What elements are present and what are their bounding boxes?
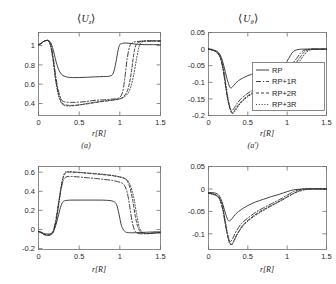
xtick-label: 0: [36, 252, 40, 261]
panel-lower-right-yticks: [209, 167, 327, 234]
ytick-label: 0.6: [25, 168, 35, 177]
figure-root: ⟨Uz⟩: [0, 0, 336, 284]
panel-uz-title-group: ⟨Uz⟩: [77, 12, 96, 25]
panel-lower-right-svg: 0 0.5 1 1.5 0.05 0 -0.05 -0.1 r[R]: [168, 152, 336, 284]
ytick-label: 0: [31, 225, 35, 234]
ytick-label: -0.05: [188, 61, 205, 70]
legend-label-rp2r: RP+2R: [272, 89, 297, 98]
curve-rpplus1r: [39, 40, 161, 102]
panel-lower-right-xticklabels: 0 0.5 1 1.5: [206, 252, 331, 261]
ytick-label: -0.05: [188, 207, 205, 216]
ytick-label: -0.1: [192, 230, 205, 239]
panel-utheta-yticks: [209, 33, 213, 116]
panel-lower-left-svg: 0 0.5 1 1.5 0.6 0.4 0.2 0 -0.2 r[R]: [0, 152, 172, 284]
panel-lower-right-xticks: [209, 167, 327, 250]
xtick-label: 1.5: [155, 118, 165, 127]
xtick-label: 0: [206, 118, 210, 127]
ytick-label: 0.2: [25, 206, 35, 215]
panel-uz: ⟨Uz⟩: [0, 0, 172, 146]
curve-rpplus2r: [39, 40, 161, 105]
ytick-label: 1: [31, 41, 35, 50]
panel-lower-left: 0 0.5 1 1.5 0.6 0.4 0.2 0 -0.2 r[R]: [0, 152, 172, 284]
ytick-label: -0.15: [188, 95, 205, 104]
xtick-label: 1.5: [321, 252, 331, 261]
panel-uz-title: ⟨Uz⟩: [77, 12, 96, 25]
panel-lower-right-yticklabels: 0.05 0 -0.05 -0.1: [188, 162, 205, 238]
curve-rpplus1r: [39, 176, 161, 235]
ytick-label: 0.05: [190, 162, 205, 171]
xtick-label: 0.5: [243, 252, 253, 261]
xtick-label: 0.5: [74, 252, 84, 261]
legend[interactable]: RP RP+1R RP+2R RP+3R: [253, 63, 325, 111]
ytick-label: 0: [201, 45, 205, 54]
panel-lower-left-yticklabels: 0.6 0.4 0.2 0 -0.2: [22, 168, 35, 253]
ytick-label: 0.8: [25, 61, 35, 70]
curve-rp: [39, 40, 161, 77]
caption-a-prime: (a'): [247, 141, 258, 150]
panel-utheta-title-group: ⟨Uθ⟩: [238, 12, 257, 25]
xtick-label: 1.5: [321, 118, 331, 127]
panel-uz-svg: ⟨Uz⟩: [0, 0, 172, 146]
xtick-label: 0.5: [243, 118, 253, 127]
panel-uz-curves: [39, 40, 161, 106]
xtick-label: 1: [285, 252, 289, 261]
panel-utheta: ⟨Uθ⟩ 0: [168, 0, 336, 146]
panel-lower-right-frame: [209, 167, 327, 250]
legend-label-rp3r: RP+3R: [272, 100, 297, 109]
panel-lower-right-curves: [209, 189, 327, 245]
panel-uz-xticklabels: 0 0.5 1 1.5: [36, 118, 165, 127]
panel-utheta-svg: ⟨Uθ⟩ 0: [168, 0, 336, 146]
legend-label-rp: RP: [272, 66, 282, 75]
ytick-label: -0.2: [192, 111, 205, 120]
panel-utheta-xticklabels: 0 0.5 1 1.5: [206, 118, 331, 127]
ytick-label: 0: [201, 185, 205, 194]
panel-lower-left-xticklabels: 0 0.5 1 1.5: [36, 252, 165, 261]
panel-lower-left-xlabel: r[R]: [92, 265, 106, 274]
curve-rp: [209, 189, 327, 221]
xtick-label: 0: [36, 118, 40, 127]
caption-a: (a): [81, 141, 91, 150]
xtick-label: 1: [285, 118, 289, 127]
panel-uz-yticklabels: 0.4 0.6 0.8 1: [25, 41, 35, 108]
ytick-label: 0.05: [190, 28, 205, 37]
ytick-label: 0.6: [25, 80, 35, 89]
panel-lower-right: 0 0.5 1 1.5 0.05 0 -0.05 -0.1 r[R]: [168, 152, 336, 284]
panel-utheta-title: ⟨Uθ⟩: [238, 12, 257, 25]
curve-rpplus2r: [39, 172, 161, 235]
xtick-label: 1: [118, 118, 122, 127]
legend-label-rp1r: RP+1R: [272, 77, 297, 86]
panel-lower-right-xlabel: r[R]: [260, 265, 274, 274]
xtick-label: 1.5: [155, 252, 165, 261]
ytick-label: -0.2: [22, 244, 35, 253]
xtick-label: 1: [118, 252, 122, 261]
panel-lower-left-curves: [39, 172, 161, 236]
ytick-label: 0.4: [25, 187, 35, 196]
xtick-label: 0: [206, 252, 210, 261]
panel-lower-left-yticks: [39, 172, 161, 248]
panel-uz-yticks: [39, 46, 161, 104]
xtick-label: 0.5: [74, 118, 84, 127]
curve-rpplus3r: [39, 40, 161, 105]
ytick-label: 0.4: [25, 99, 35, 108]
curve-rpplus3r: [39, 172, 161, 236]
panel-utheta-yticklabels: 0.05 0 -0.05 -0.1 -0.15 -0.2: [188, 28, 205, 120]
ytick-label: -0.1: [192, 78, 205, 87]
